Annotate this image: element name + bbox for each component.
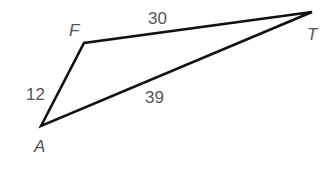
- vertex-label-t: T: [307, 25, 319, 44]
- triangle-diagram: F T A 30 12 39: [0, 0, 325, 169]
- side-label-at: 39: [145, 88, 164, 107]
- side-label-ft: 30: [148, 9, 167, 28]
- triangle-aft: [41, 12, 312, 126]
- vertex-label-a: A: [33, 137, 45, 156]
- side-label-af: 12: [26, 85, 45, 104]
- vertex-label-f: F: [69, 21, 81, 40]
